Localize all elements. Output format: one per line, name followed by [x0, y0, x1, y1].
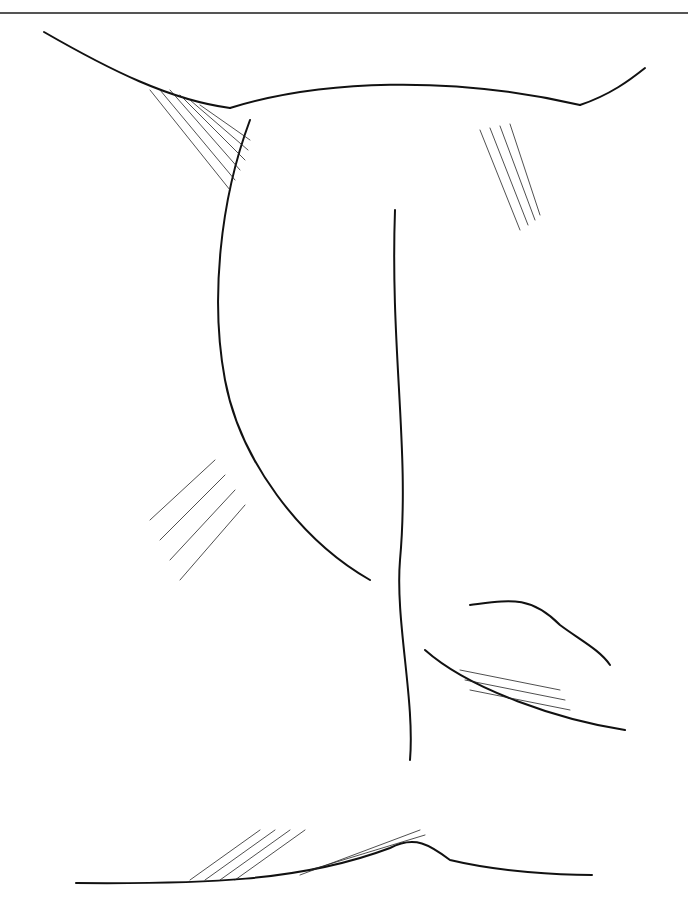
hatching-left: [150, 90, 250, 580]
hatching-right: [460, 124, 570, 710]
outline-inner-left: [218, 120, 370, 580]
outline-top-right: [580, 68, 645, 105]
outline-branch: [470, 601, 610, 665]
outline-inner-right: [425, 650, 625, 730]
outline-center: [394, 210, 411, 760]
line-art-illustration: [0, 0, 688, 903]
outline-top-arc: [230, 85, 580, 108]
outline-top-left: [44, 32, 230, 108]
hatching-bottom: [190, 830, 425, 880]
